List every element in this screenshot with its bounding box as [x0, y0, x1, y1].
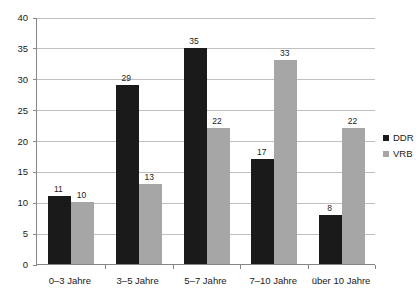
y-axis-tick [33, 265, 37, 266]
chart-legend: DDRVRB [383, 130, 414, 162]
bar-vrb-0 [71, 202, 94, 264]
legend-item-ddr[interactable]: DDR [383, 130, 414, 146]
data-label: 17 [246, 148, 277, 157]
data-label: 35 [179, 37, 210, 46]
bar-vrb-4 [342, 128, 365, 264]
y-axis-label: 15 [4, 167, 28, 177]
data-label: 13 [134, 173, 165, 182]
x-axis-tick [240, 265, 241, 269]
bar-chart: DDRVRB 051015202530354011100–3 Jahre2913… [0, 0, 419, 300]
y-axis-label: 20 [4, 137, 28, 147]
x-axis-tick [308, 265, 309, 269]
bar-vrb-2 [207, 128, 230, 264]
x-axis-tick [173, 265, 174, 269]
bar-ddr-3 [251, 159, 274, 264]
y-axis-tick [33, 203, 37, 204]
y-axis-label: 40 [4, 13, 28, 23]
data-label: 29 [111, 74, 142, 83]
data-label: 22 [202, 117, 233, 126]
plot-area [36, 18, 375, 265]
y-axis-tick [33, 141, 37, 142]
data-label: 10 [66, 191, 97, 200]
data-label: 22 [337, 117, 368, 126]
legend-label: DDR [393, 133, 414, 143]
bar-vrb-3 [274, 60, 297, 264]
square-swatch-gray-icon [383, 151, 389, 157]
bar-ddr-2 [184, 48, 207, 264]
square-swatch-black-icon [383, 135, 389, 141]
bar-ddr-4 [319, 215, 342, 264]
y-axis-tick [33, 18, 37, 19]
x-axis-tick [375, 265, 376, 269]
y-axis-label: 10 [4, 198, 28, 208]
y-axis-tick [33, 48, 37, 49]
data-label: 33 [269, 49, 300, 58]
y-axis-label: 35 [4, 44, 28, 54]
y-axis-label: 5 [4, 229, 28, 239]
y-axis-tick [33, 234, 37, 235]
bar-vrb-1 [139, 184, 162, 264]
gridline [37, 18, 375, 19]
y-axis-tick [33, 172, 37, 173]
bar-ddr-0 [48, 196, 71, 264]
x-axis-label: über 10 Jahre [299, 276, 383, 286]
x-axis-tick [105, 265, 106, 269]
y-axis-label: 25 [4, 106, 28, 116]
y-axis-label: 30 [4, 75, 28, 85]
legend-label: VRB [393, 149, 413, 159]
legend-item-vrb[interactable]: VRB [383, 146, 414, 162]
y-axis-tick [33, 110, 37, 111]
y-axis-label: 0 [4, 260, 28, 270]
data-label: 8 [314, 204, 345, 213]
y-axis-tick [33, 79, 37, 80]
